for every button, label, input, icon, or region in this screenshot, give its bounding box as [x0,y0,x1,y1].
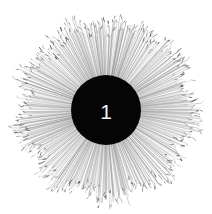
branch-tip-mark [98,206,99,208]
branch-tip-mark [171,181,172,184]
branch-tip-mark [169,168,170,170]
branch-tip-mark [169,140,171,141]
branch-tip-mark [190,119,193,120]
branch-tip-mark [197,110,199,111]
branch-tip-mark [114,16,115,18]
figure-root: 1 [0,0,212,214]
branch-tip-mark [89,186,90,188]
branch-tip-mark [191,113,194,114]
radial-dendrogram-canvas: 1 [0,0,212,214]
branch-tip-mark [91,23,92,25]
branch-tip-mark [108,21,109,24]
branch-tip-mark [55,177,58,178]
branch-tip-mark [65,190,66,193]
hub-label: 1 [100,100,112,123]
branch-tip-mark [195,111,198,112]
branch-tip-mark [29,115,32,116]
branch-tip-mark [173,175,175,176]
